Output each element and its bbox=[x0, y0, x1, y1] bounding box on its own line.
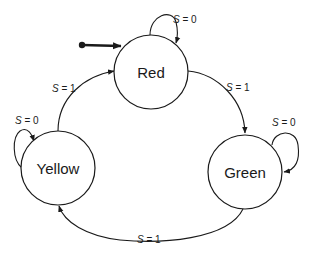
edge-label-red-green: S = 1 bbox=[226, 82, 250, 93]
edge-yellow-red bbox=[58, 71, 114, 131]
state-yellow-label: Yellow bbox=[37, 160, 80, 177]
edge-label-yellow-yellow: S = 0 bbox=[15, 115, 39, 126]
state-diagram: Red Yellow Green S = 0 S = 1 S = 0 S = 1… bbox=[0, 0, 311, 254]
initial-transition bbox=[79, 42, 121, 48]
state-green: Green bbox=[208, 135, 282, 209]
edge-label-green-green: S = 0 bbox=[272, 117, 296, 128]
edge-label-yellow-red: S = 1 bbox=[52, 83, 76, 94]
state-red: Red bbox=[114, 35, 188, 109]
state-green-label: Green bbox=[224, 164, 266, 181]
edge-label-green-yellow: S = 1 bbox=[137, 234, 161, 245]
initial-arrow bbox=[82, 45, 121, 46]
edge-label-red-red: S = 0 bbox=[173, 14, 197, 25]
state-yellow: Yellow bbox=[21, 131, 95, 205]
edge-red-green bbox=[188, 71, 245, 133]
state-red-label: Red bbox=[137, 64, 165, 81]
